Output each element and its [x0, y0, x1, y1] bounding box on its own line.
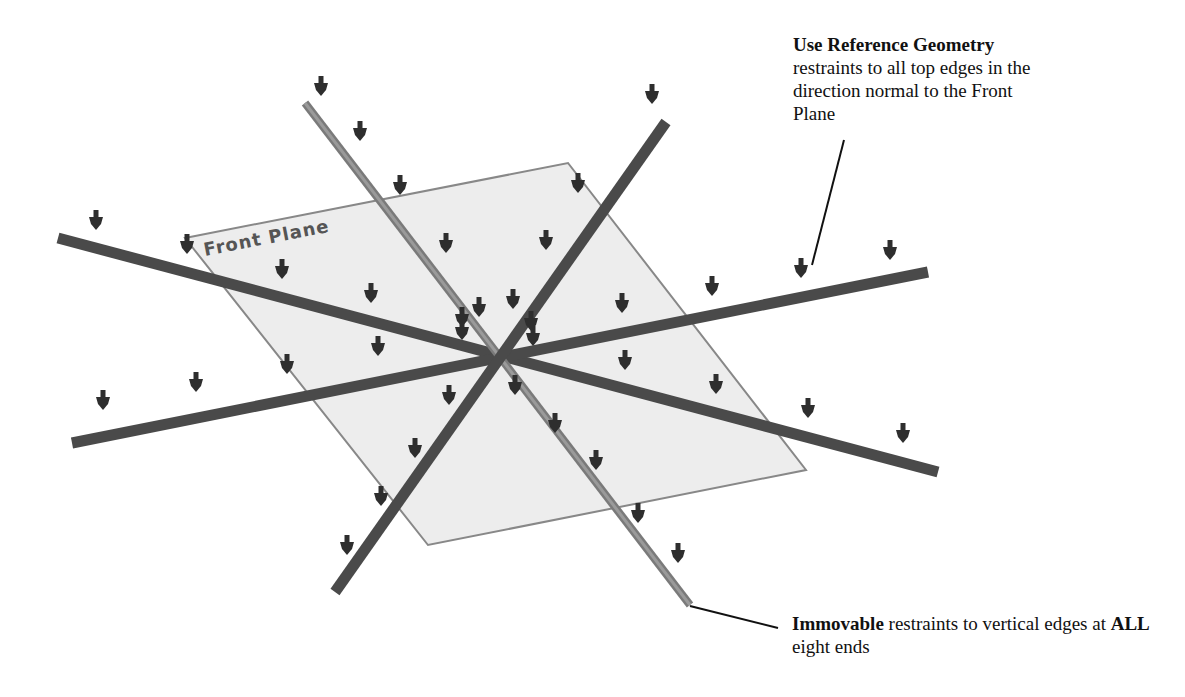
down-arrow-icon — [393, 175, 407, 195]
down-arrow-icon — [631, 503, 645, 523]
down-arrow-icon — [794, 258, 808, 278]
reference-geometry-annotation: Use Reference Geometry restraints to all… — [793, 33, 1053, 125]
down-arrow-icon — [96, 390, 110, 410]
annotation-bottom-bold1: Immovable — [792, 613, 884, 634]
down-arrow-icon — [896, 423, 910, 443]
annotation-bottom-text2: eight ends — [792, 636, 870, 657]
annotation-top-text: restraints to all top edges in the direc… — [793, 57, 1030, 124]
down-arrow-icon — [801, 398, 815, 418]
down-arrow-icon — [89, 210, 103, 230]
annotation-bottom-text1: restraints to vertical edges at — [884, 613, 1111, 634]
down-arrow-icon — [314, 76, 328, 96]
down-arrow-icon — [705, 276, 719, 296]
down-arrow-icon — [883, 240, 897, 260]
top-leader-line — [812, 140, 844, 265]
annotation-top-bold: Use Reference Geometry — [793, 34, 994, 55]
down-arrow-icon — [189, 372, 203, 392]
down-arrow-icon — [340, 535, 354, 555]
down-arrow-icon — [353, 121, 367, 141]
down-arrow-icon — [645, 84, 659, 104]
down-arrow-icon — [671, 543, 685, 563]
bottom-leader-line — [690, 606, 778, 628]
annotation-bottom-bold2: ALL — [1111, 613, 1150, 634]
immovable-annotation: Immovable restraints to vertical edges a… — [792, 612, 1152, 658]
